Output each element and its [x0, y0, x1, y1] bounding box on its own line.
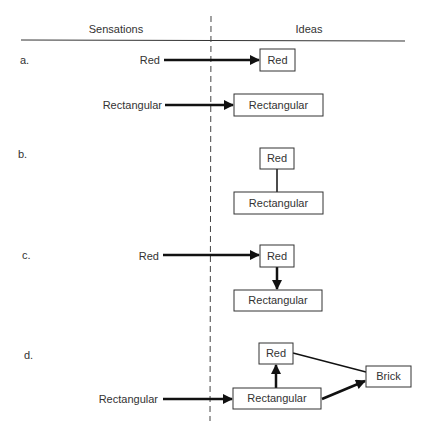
panel-d: d. Rectangular Red Rectangular Brick [24, 343, 411, 409]
panel-c: c. Red Red Rectangular [22, 245, 322, 311]
sensations-ideas-diagram: Sensations Ideas a. Red Red Rectangular … [0, 0, 429, 436]
sensation-red: Red [139, 250, 159, 262]
svg-text:Rectangular: Rectangular [248, 294, 308, 306]
svg-text:Brick: Brick [376, 370, 401, 382]
idea-box-red: Red [260, 245, 294, 267]
panel-b: b. Red Rectangular [18, 148, 323, 214]
panel-a: a. Red Red Rectangular Rectangular [20, 49, 323, 116]
panel-label: b. [18, 148, 27, 160]
idea-box-brick: Brick [366, 366, 411, 387]
association-red-brick [293, 353, 366, 372]
svg-text:Red: Red [267, 54, 287, 66]
svg-text:Rectangular: Rectangular [247, 392, 307, 404]
idea-box-rectangular: Rectangular [234, 94, 323, 116]
idea-box-rectangular: Rectangular [234, 290, 322, 311]
idea-box-red: Red [260, 148, 294, 169]
svg-text:Red: Red [266, 347, 286, 359]
sensation-red: Red [140, 54, 160, 66]
idea-box-red: Red [259, 343, 293, 364]
idea-box-rectangular: Rectangular [234, 192, 323, 214]
idea-box-red: Red [260, 49, 295, 71]
header-rule [21, 40, 405, 41]
svg-text:Rectangular: Rectangular [249, 197, 309, 209]
header-sensations: Sensations [89, 23, 144, 35]
svg-text:Red: Red [267, 250, 287, 262]
panel-label: d. [24, 349, 33, 361]
svg-text:Rectangular: Rectangular [249, 99, 309, 111]
idea-box-rectangular: Rectangular [233, 388, 321, 409]
sensation-rectangular: Rectangular [103, 99, 163, 111]
sensation-rectangular: Rectangular [99, 393, 159, 405]
divider-dashed-line [210, 16, 211, 421]
arrow-rectangular-to-brick [322, 381, 365, 399]
header-ideas: Ideas [296, 23, 323, 35]
svg-text:Red: Red [267, 152, 287, 164]
panel-label: a. [20, 54, 29, 66]
panel-label: c. [22, 249, 31, 261]
